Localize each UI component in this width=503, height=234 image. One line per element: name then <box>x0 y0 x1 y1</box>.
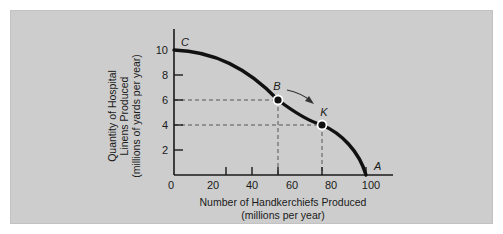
y-tick-label-10: 10 <box>156 44 168 56</box>
y-axis-ticks <box>174 50 183 150</box>
y-axis-tick-labels: 2 4 6 8 10 <box>156 44 168 156</box>
x-axis-tick-labels: 0 20 40 60 80 100 <box>168 179 380 191</box>
data-point-K <box>317 120 328 131</box>
x-tick-label-60: 60 <box>286 179 298 191</box>
y-axis-title-line2: Linens Produced <box>118 76 130 155</box>
point-label-A: A <box>373 160 381 172</box>
x-tick-label-100: 100 <box>362 179 380 191</box>
y-axis-title: Quantity of Hospital Linens Produced (mi… <box>106 54 142 178</box>
y-tick-label-8: 8 <box>162 69 168 81</box>
x-axis-title-line1: Number of Handkerchiefs Produced <box>200 196 367 208</box>
movement-arrow-icon <box>287 90 314 104</box>
data-point-B <box>273 95 284 106</box>
point-label-B: B <box>273 80 280 92</box>
y-axis-title-line1: Quantity of Hospital <box>106 70 118 162</box>
point-label-C: C <box>181 36 189 48</box>
y-tick-label-4: 4 <box>162 119 168 131</box>
x-axis-ticks <box>226 167 366 175</box>
x-axis-title-units: (millions per year) <box>241 209 324 221</box>
x-tick-label-40: 40 <box>246 179 258 191</box>
x-tick-label-80: 80 <box>325 179 337 191</box>
x-axis-title: Number of Handkerchiefs Produced (millio… <box>200 196 367 221</box>
y-axis-title-units: (millions of yards per year) <box>130 54 142 178</box>
chart-panel: Quantity of Hospital Linens Produced (mi… <box>10 10 493 224</box>
y-tick-label-6: 6 <box>162 94 168 106</box>
figure-root: Quantity of Hospital Linens Produced (mi… <box>0 0 503 234</box>
x-tick-label-0: 0 <box>168 179 174 191</box>
guide-lines <box>174 100 322 175</box>
x-tick-label-20: 20 <box>207 179 219 191</box>
ppf-curve <box>174 50 366 175</box>
y-tick-label-2: 2 <box>162 144 168 156</box>
ppf-chart: Quantity of Hospital Linens Produced (mi… <box>11 11 492 223</box>
point-label-K: K <box>320 106 328 118</box>
